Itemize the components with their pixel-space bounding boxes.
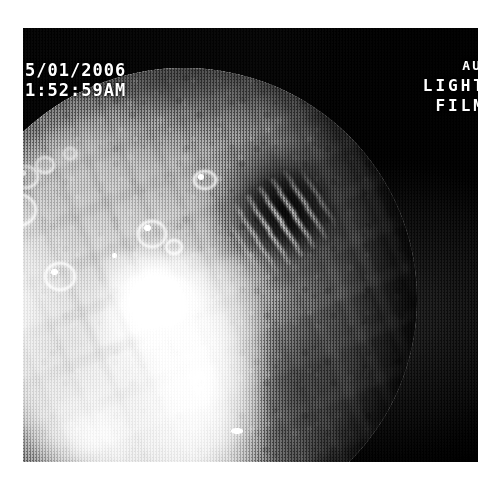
endoscope-circular-field-of-view [23, 68, 417, 462]
timestamp-time: 1:52:59AM [25, 80, 126, 100]
camera-light-label: LIGHT [423, 76, 478, 95]
timestamp-date: 5/01/2006 [25, 60, 126, 80]
camera-above-label: AU [462, 58, 478, 73]
endoscopic-photograph: 5/01/2006 1:52:59AM AU LIGHT FILM [23, 28, 478, 462]
camera-film-label: FILM [435, 96, 478, 115]
screenshot-root: 5/01/2006 1:52:59AM AU LIGHT FILM [0, 0, 502, 484]
